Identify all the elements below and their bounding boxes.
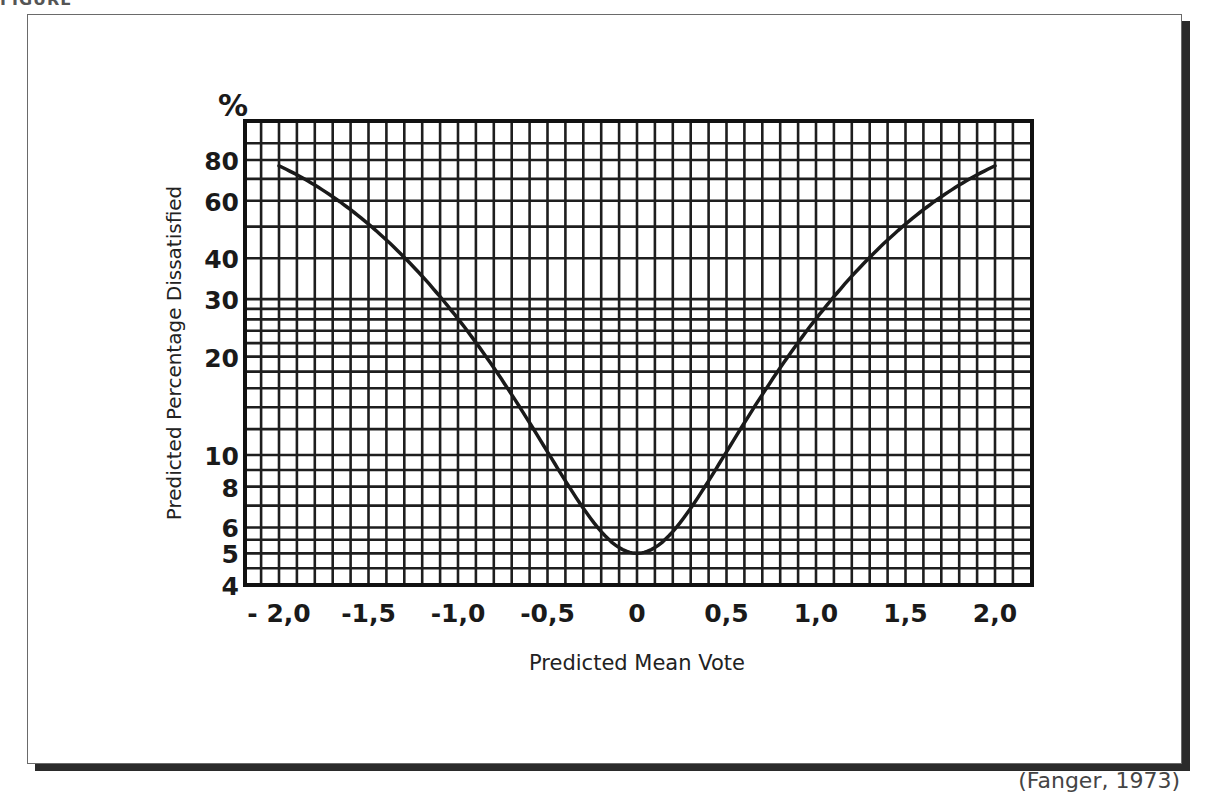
x-tick-label: 0,5 bbox=[704, 599, 748, 628]
x-tick-label: -1,5 bbox=[341, 599, 396, 628]
x-tick-label: 0 bbox=[628, 599, 645, 628]
y-axis-title: Predicted Percentage Dissatisfied bbox=[162, 186, 186, 521]
x-tick-label: -0,5 bbox=[520, 599, 575, 628]
y-tick-label: 5 bbox=[222, 540, 239, 569]
y-tick-label: 20 bbox=[204, 344, 239, 373]
y-axis-ticks: 8060403020108654 bbox=[204, 147, 239, 601]
y-tick-label: 60 bbox=[204, 188, 239, 217]
y-tick-label: 10 bbox=[204, 442, 239, 471]
y-unit-label: % bbox=[218, 88, 248, 123]
x-tick-label: 1,5 bbox=[883, 599, 927, 628]
y-tick-label: 4 bbox=[222, 572, 239, 601]
x-tick-label: 2,0 bbox=[973, 599, 1017, 628]
source-caption: (Fanger, 1973) bbox=[1018, 768, 1180, 793]
y-tick-label: 30 bbox=[204, 286, 239, 315]
y-tick-label: 6 bbox=[222, 514, 239, 543]
x-axis-ticks: - 2,0-1,5-1,0-0,500,51,01,52,0 bbox=[247, 599, 1017, 628]
x-tick-label: - 2,0 bbox=[247, 599, 310, 628]
y-tick-label: 8 bbox=[222, 474, 239, 503]
x-tick-label: 1,0 bbox=[794, 599, 838, 628]
x-tick-label: -1,0 bbox=[431, 599, 486, 628]
y-tick-label: 80 bbox=[204, 147, 239, 176]
x-axis-title: Predicted Mean Vote bbox=[529, 651, 745, 675]
y-tick-label: 40 bbox=[204, 245, 239, 274]
chart-grid bbox=[245, 121, 1032, 585]
